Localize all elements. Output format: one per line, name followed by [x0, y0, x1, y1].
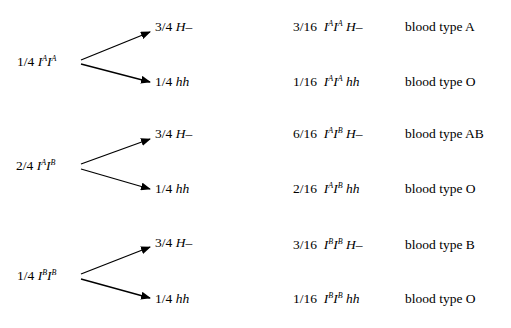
branch-2-top: 3/4 H– [155, 127, 192, 141]
phenotype-2b: blood type O [405, 182, 476, 196]
arrow-group-1 [81, 32, 150, 82]
branch-arrows [0, 0, 511, 328]
result-2a: 6/16 IAIB H– [293, 127, 362, 141]
parent-genotype-1: 1/4 IAIA [17, 55, 56, 69]
parent-genotype-3: 1/4 IBIB [17, 269, 56, 283]
result-3a: 3/16 IBIB H– [293, 238, 362, 252]
branch-3-bottom: 1/4 hh [155, 292, 189, 306]
phenotype-3a: blood type B [405, 238, 475, 252]
result-3b: 1/16 IBIB hh [293, 292, 359, 306]
result-1a: 3/16 IAIA H– [293, 20, 362, 34]
arrow-group-2 [81, 139, 150, 189]
result-2b: 2/16 IAIB hh [293, 182, 359, 196]
phenotype-3b: blood type O [405, 292, 476, 306]
arrow-group-3 [81, 247, 150, 298]
phenotype-1a: blood type A [405, 20, 475, 34]
result-1b: 1/16 IAIA hh [293, 75, 359, 89]
parent-genotype-2: 2/4 IAIB [16, 159, 55, 173]
phenotype-1b: blood type O [405, 75, 476, 89]
phenotype-2a: blood type AB [405, 127, 484, 141]
branch-1-bottom: 1/4 hh [155, 75, 189, 89]
branch-3-top: 3/4 H– [155, 236, 192, 250]
branch-1-top: 3/4 H– [155, 20, 192, 34]
branch-2-bottom: 1/4 hh [155, 182, 189, 196]
